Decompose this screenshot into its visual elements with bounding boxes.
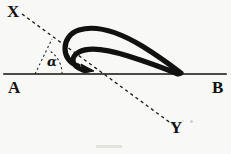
scan-artifact-near-y [190,120,193,123]
label-x: X [7,3,19,20]
label-angle-alpha: α [47,55,57,68]
label-b: B [212,79,223,96]
scan-artifact-bottom [96,145,122,148]
label-y: Y [170,119,182,136]
geometry-figure: X Y A B α [0,0,231,154]
label-a: A [8,79,20,96]
figure-canvas [0,0,231,154]
